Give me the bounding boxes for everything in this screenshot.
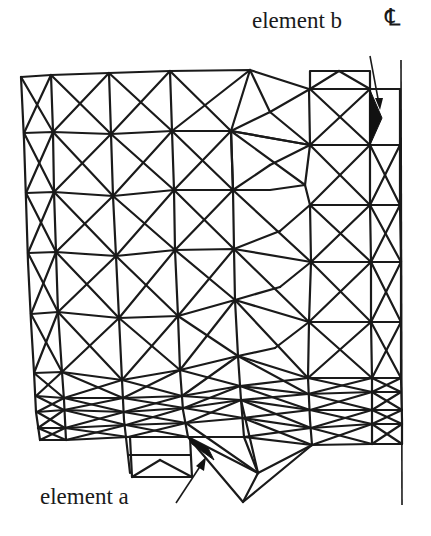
mesh-diag: [258, 445, 312, 473]
mesh-boundary-top: [21, 70, 309, 89]
mesh-diag: [132, 460, 160, 477]
mesh-diag: [243, 473, 258, 502]
mesh-diag: [160, 460, 192, 477]
mesh-diag: [310, 71, 339, 89]
element-a-label: element a: [40, 484, 129, 510]
mesh-row-7: [37, 400, 402, 412]
mesh-diagram: [0, 0, 431, 536]
mesh-row-3: [28, 249, 401, 262]
centerline: [401, 60, 402, 505]
mesh-row-1: [24, 131, 400, 145]
element-b-label: element b: [252, 8, 342, 34]
mesh-row-5: [34, 356, 401, 380]
mesh-row-6: [36, 386, 401, 398]
mesh-top-block: [310, 71, 370, 89]
mesh-row-2: [26, 185, 305, 196]
mesh-column-4: [231, 70, 250, 437]
mesh-diag: [339, 71, 370, 89]
finite-element-mesh: [21, 70, 402, 502]
centerline-label: ℄: [385, 4, 400, 32]
mesh-row-4: [31, 300, 401, 322]
